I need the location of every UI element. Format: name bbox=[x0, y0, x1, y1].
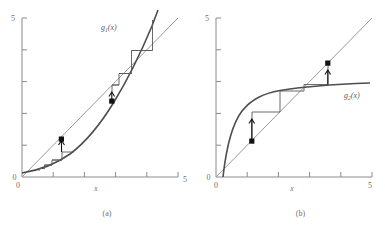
plot-b: g2(x) 5 0 0 5 x bbox=[192, 0, 385, 200]
panel-tag-b: (b) bbox=[192, 209, 385, 218]
curve-g1 bbox=[22, 10, 158, 173]
arrow-marker-upper-a bbox=[109, 92, 115, 104]
y-max-label-b: 5 bbox=[205, 14, 209, 23]
identity-line-a bbox=[22, 18, 178, 177]
panel-a: g1(x) 5 0 0 5 x (a) bbox=[0, 0, 192, 226]
arrow-marker-lower-b bbox=[249, 119, 255, 144]
figure-container: g1(x) 5 0 0 5 x (a) bbox=[0, 0, 385, 226]
x-ticks-a bbox=[53, 172, 178, 177]
x-axis-label-b: x bbox=[289, 184, 294, 193]
y-min-label-b: 0 bbox=[207, 173, 211, 182]
y-max-label-a: 5 bbox=[11, 14, 15, 23]
x-max-label-b: 5 bbox=[368, 181, 372, 190]
data-point-marker bbox=[109, 99, 114, 104]
x-axis-label-a: x bbox=[93, 184, 98, 193]
y-ticks-a bbox=[22, 18, 27, 145]
cobweb-b bbox=[252, 64, 328, 141]
x-min-label-a: 0 bbox=[16, 181, 20, 190]
data-point-marker bbox=[59, 137, 64, 142]
panel-tag-a: (a) bbox=[0, 209, 192, 218]
arrow-marker-upper-b bbox=[325, 61, 331, 85]
panel-b: g2(x) 5 0 0 5 x (b) bbox=[192, 0, 385, 226]
data-point-marker bbox=[249, 139, 254, 144]
data-point-marker bbox=[325, 61, 330, 66]
x-max-label-a: 5 bbox=[183, 175, 187, 184]
x-min-label-b: 0 bbox=[214, 181, 218, 190]
y-ticks-b bbox=[216, 18, 221, 145]
cobweb-upper-a bbox=[112, 20, 153, 92]
x-ticks-b bbox=[247, 172, 372, 177]
curve-label-g1: g1(x) bbox=[101, 23, 117, 33]
plot-a: g1(x) 5 0 0 5 x bbox=[0, 0, 192, 200]
arrow-marker-lower-a bbox=[59, 137, 65, 153]
curve-label-g2: g2(x) bbox=[344, 91, 360, 101]
